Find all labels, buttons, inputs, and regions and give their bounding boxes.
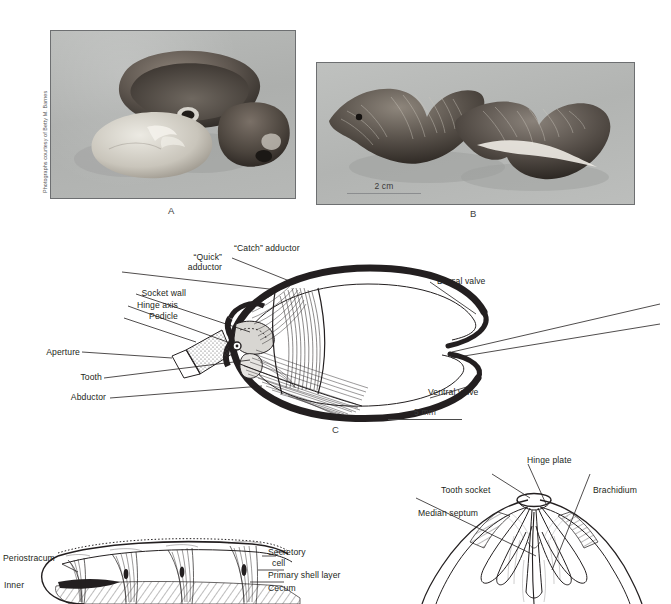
label-hinge-plate: Hinge plate	[527, 455, 572, 465]
figure-root: Photographs courtesy of Betty M. Barnes …	[0, 0, 671, 604]
panel-c-scale-bar: 5 mm	[388, 407, 462, 420]
panel-b-scale-label: 2 cm	[347, 181, 421, 192]
panel-b-scale-bar: 2 cm	[347, 181, 421, 194]
label-secretory-cell-line2: cell	[272, 558, 285, 568]
panel-b-scale-rule	[347, 193, 421, 194]
label-quick-adductor-line1: “Quick”	[160, 252, 222, 262]
label-pedicle: Pedicle	[116, 311, 178, 321]
label-socket-wall: Socket wall	[124, 288, 186, 298]
label-brachidium: Brachidium	[593, 485, 637, 495]
label-secretory-cell-line1: Secretory	[268, 547, 306, 557]
panel-letter-c: C	[332, 424, 339, 435]
panel-b-photograph: 2 cm	[316, 62, 635, 205]
label-ventral-valve: Ventral valve	[428, 387, 479, 397]
label-periostracum: Periostracum	[3, 553, 55, 563]
label-hinge-axis: Hinge axis	[116, 300, 178, 310]
panel-c-scale-rule	[388, 419, 462, 420]
label-quick-adductor-line2: adductor	[160, 262, 222, 272]
panel-letter-b: B	[470, 208, 477, 219]
label-dorsal-valve: Dorsal valve	[437, 276, 485, 286]
label-inner: Inner	[4, 580, 24, 590]
label-aperture: Aperture	[22, 347, 80, 357]
label-catch-adductor: “Catch” adductor	[234, 243, 300, 253]
label-quick-adductor: “Quick” adductor	[160, 252, 222, 273]
label-abductor: Abductor	[44, 392, 106, 402]
panel-e-diagram	[380, 450, 671, 604]
label-cecum: Cecum	[268, 583, 296, 593]
panel-c-scale-label: 5 mm	[388, 407, 462, 418]
panel-a-photograph	[50, 30, 296, 199]
photo-a-shells	[51, 31, 295, 198]
label-tooth: Tooth	[58, 372, 102, 382]
label-median-septum: Median septum	[418, 508, 478, 518]
panel-letter-a: A	[168, 205, 175, 216]
photo-credit: Photographs courtesy of Betty M. Barnes	[42, 91, 48, 193]
label-primary-shell-layer: Primary shell layer	[268, 570, 341, 580]
label-tooth-socket: Tooth socket	[441, 485, 490, 495]
